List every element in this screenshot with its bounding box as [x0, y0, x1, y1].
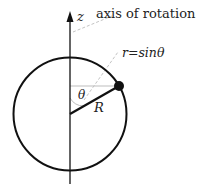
theta-label: θ: [78, 88, 86, 102]
r-equals-sin-theta-label: r=sinθ: [122, 45, 165, 60]
radius-r-label: R: [93, 100, 104, 115]
z-axis-label: z: [76, 9, 84, 24]
z-axis-arrowhead: [67, 11, 74, 22]
axis-of-rotation-label: axis of rotation: [96, 6, 196, 21]
point-on-sphere: [114, 81, 124, 91]
sphere-rotation-diagram: z axis of rotation r=sinθ θ R: [0, 0, 209, 193]
